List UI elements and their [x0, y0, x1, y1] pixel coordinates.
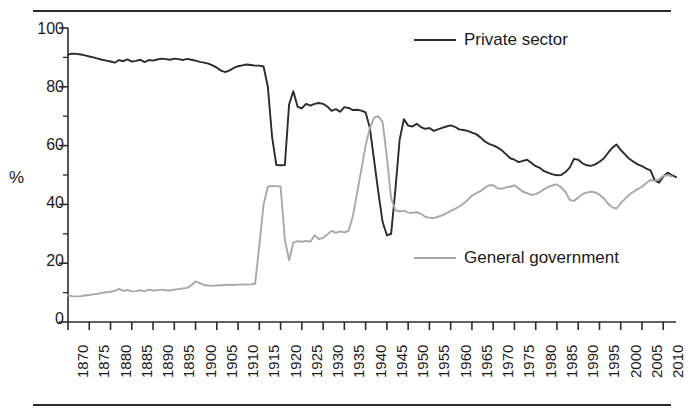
y-axis-ticks	[59, 28, 68, 322]
xtick-label-1920: 1920	[287, 345, 304, 378]
series-line-private-sector	[68, 54, 676, 236]
xtick-label-1925: 1925	[308, 345, 325, 378]
xtick-label-2010: 2010	[669, 345, 686, 378]
xtick-label-1980: 1980	[542, 345, 559, 378]
xtick-label-1995: 1995	[605, 345, 622, 378]
xtick-label-1915: 1915	[265, 345, 282, 378]
xtick-label-1895: 1895	[180, 345, 197, 378]
xtick-label-1910: 1910	[244, 345, 261, 378]
xtick-label-1935: 1935	[350, 345, 367, 378]
xtick-label-1960: 1960	[457, 345, 474, 378]
series-line-general-government	[68, 116, 672, 296]
chart-figure: % 100 80 60 40 20 0 Private sector Gener…	[0, 0, 699, 416]
xtick-label-1990: 1990	[584, 345, 601, 378]
xtick-label-1950: 1950	[414, 345, 431, 378]
xtick-label-1940: 1940	[372, 345, 389, 378]
xtick-label-1885: 1885	[138, 345, 155, 378]
xtick-label-1900: 1900	[202, 345, 219, 378]
xtick-label-1930: 1930	[329, 345, 346, 378]
xtick-label-2005: 2005	[648, 345, 665, 378]
xtick-label-1875: 1875	[95, 345, 112, 378]
xtick-label-1975: 1975	[520, 345, 537, 378]
xtick-label-1985: 1985	[563, 345, 580, 378]
xtick-label-1905: 1905	[223, 345, 240, 378]
xtick-label-1965: 1965	[478, 345, 495, 378]
xtick-label-1945: 1945	[393, 345, 410, 378]
xtick-label-1955: 1955	[435, 345, 452, 378]
xtick-label-1970: 1970	[499, 345, 516, 378]
xtick-label-1870: 1870	[74, 345, 91, 378]
xtick-label-1880: 1880	[117, 345, 134, 378]
xtick-label-1890: 1890	[159, 345, 176, 378]
xtick-label-2000: 2000	[627, 345, 644, 378]
x-axis-ticks	[68, 322, 663, 330]
